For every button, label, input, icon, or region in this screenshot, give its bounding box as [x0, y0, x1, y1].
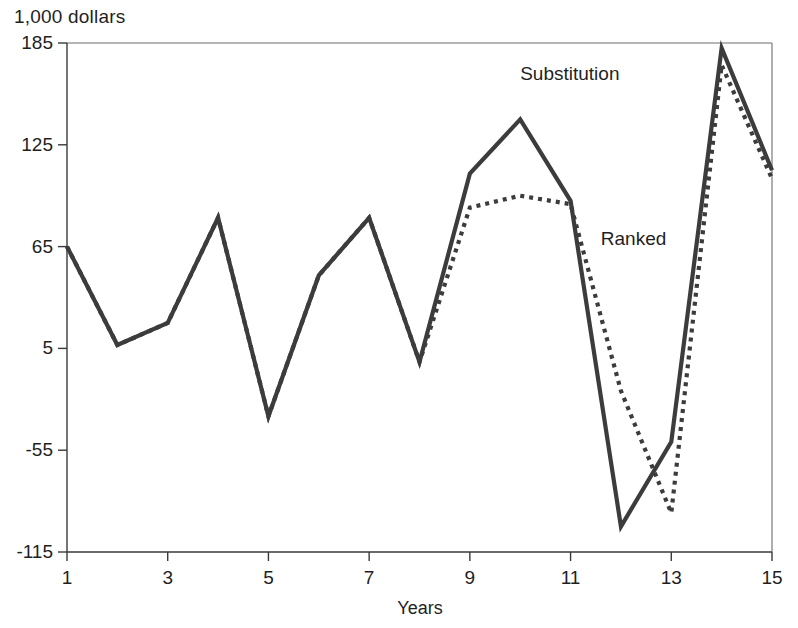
x-tick-label: 9 — [465, 567, 476, 588]
y-tick-label: -55 — [26, 439, 53, 460]
series-group — [67, 48, 772, 526]
y-tick-label: 125 — [21, 134, 53, 155]
x-tick-label: 15 — [761, 567, 782, 588]
y-tick-label: 5 — [42, 337, 53, 358]
x-tick-label: 7 — [364, 567, 375, 588]
x-axis: 13579111315 — [62, 552, 783, 588]
chart-container: 1,000 dollars -115-55565125185 135791113… — [0, 0, 798, 628]
plot-frame — [67, 43, 772, 552]
y-tick-label: 65 — [32, 236, 53, 257]
series-label-substitution: Substitution — [520, 63, 619, 84]
y-tick-label: 185 — [21, 32, 53, 53]
x-tick-label: 13 — [661, 567, 682, 588]
line-chart-plot: -115-55565125185 13579111315 Substitutio… — [0, 0, 798, 628]
x-tick-label: 1 — [62, 567, 73, 588]
y-tick-label: -115 — [16, 541, 53, 562]
x-tick-label: 11 — [561, 567, 581, 588]
x-axis-title: Years — [397, 598, 442, 618]
x-tick-label: 3 — [162, 567, 173, 588]
series-line-ranked — [67, 65, 772, 513]
series-label-ranked: Ranked — [601, 228, 667, 249]
y-axis: -115-55565125185 — [16, 32, 67, 562]
series-line-substitution — [67, 48, 772, 526]
x-tick-label: 5 — [263, 567, 274, 588]
